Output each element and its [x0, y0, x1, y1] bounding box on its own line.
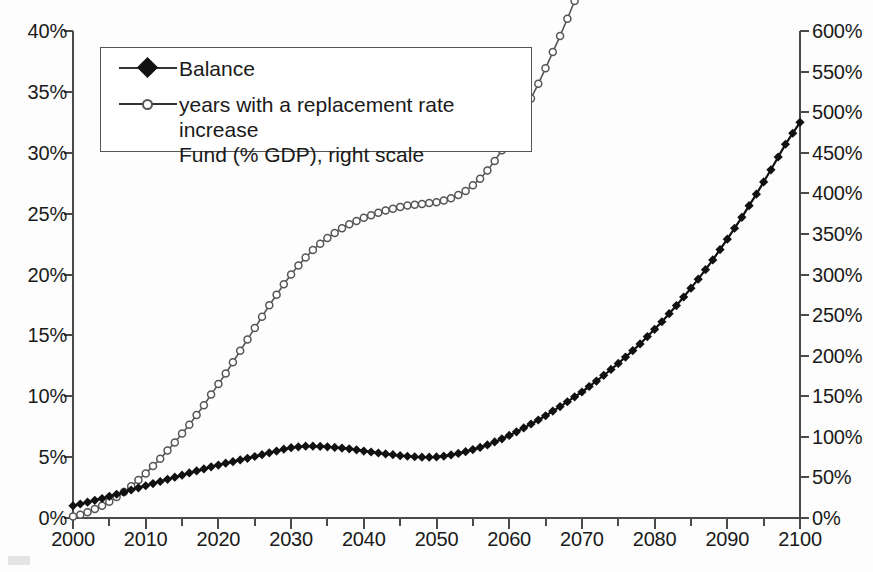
- marker-circle: [179, 430, 186, 437]
- filled-diamond-icon: [117, 56, 179, 80]
- marker-circle: [157, 455, 164, 462]
- marker-circle: [375, 209, 382, 216]
- marker-diamond: [221, 459, 230, 468]
- marker-diamond: [323, 442, 332, 451]
- marker-diamond: [134, 483, 143, 492]
- marker-diamond: [432, 452, 441, 461]
- marker-diamond: [141, 481, 150, 490]
- marker-circle: [91, 506, 98, 513]
- marker-diamond: [257, 450, 266, 459]
- marker-circle: [84, 509, 91, 516]
- marker-circle: [215, 381, 222, 388]
- marker-circle: [339, 225, 346, 232]
- legend-label-fund: years with a replacement rate increase F…: [179, 92, 531, 167]
- marker-circle: [557, 32, 564, 39]
- marker-diamond: [236, 455, 245, 464]
- marker-circle: [135, 476, 142, 483]
- marker-diamond: [170, 473, 179, 482]
- marker-diamond: [454, 449, 463, 458]
- marker-diamond: [374, 448, 383, 457]
- caption-fragment: [8, 556, 30, 565]
- marker-diamond: [265, 448, 274, 457]
- marker-diamond: [207, 462, 216, 471]
- marker-diamond: [359, 446, 368, 455]
- marker-circle: [448, 195, 455, 202]
- marker-circle: [259, 313, 266, 320]
- marker-circle: [535, 80, 542, 87]
- marker-diamond: [76, 499, 85, 508]
- marker-circle: [280, 281, 287, 288]
- marker-diamond: [243, 454, 252, 463]
- marker-diamond: [199, 464, 208, 473]
- marker-diamond: [519, 423, 528, 432]
- marker-diamond: [90, 496, 99, 505]
- marker-diamond: [163, 475, 172, 484]
- marker-circle: [411, 201, 418, 208]
- marker-diamond: [68, 501, 77, 510]
- marker-diamond: [272, 446, 281, 455]
- marker-circle: [222, 370, 229, 377]
- marker-diamond: [476, 443, 485, 452]
- marker-diamond: [381, 449, 390, 458]
- marker-circle: [469, 182, 476, 189]
- marker-diamond: [279, 445, 288, 454]
- marker-diamond: [185, 468, 194, 477]
- marker-circle: [295, 262, 302, 269]
- open-circle-icon: [117, 92, 179, 116]
- marker-circle: [200, 402, 207, 409]
- marker-circle: [404, 202, 411, 209]
- marker-circle: [455, 192, 462, 199]
- marker-circle: [389, 205, 396, 212]
- marker-circle: [317, 240, 324, 247]
- marker-circle: [549, 49, 556, 56]
- marker-diamond: [287, 443, 296, 452]
- marker-diamond: [534, 415, 543, 424]
- marker-circle: [77, 511, 84, 518]
- marker-diamond: [250, 452, 259, 461]
- marker-diamond: [774, 152, 783, 161]
- marker-circle: [229, 359, 236, 366]
- marker-circle: [324, 235, 331, 242]
- marker-circle: [426, 200, 433, 207]
- marker-diamond: [446, 450, 455, 459]
- marker-diamond: [366, 447, 375, 456]
- marker-diamond: [345, 444, 354, 453]
- marker-circle: [484, 167, 491, 174]
- marker-circle: [331, 230, 338, 237]
- marker-circle: [193, 411, 200, 418]
- marker-diamond: [214, 460, 223, 469]
- marker-circle: [462, 187, 469, 194]
- marker-diamond: [330, 443, 339, 452]
- legend-item-fund: years with a replacement rate increase F…: [117, 92, 531, 167]
- marker-circle: [237, 347, 244, 354]
- marker-diamond: [396, 451, 405, 460]
- marker-circle: [142, 470, 149, 477]
- marker-diamond: [156, 477, 165, 486]
- marker-diamond: [468, 445, 477, 454]
- marker-diamond: [526, 419, 535, 428]
- chart-legend: Balance years with a replacement rate in…: [100, 47, 532, 152]
- marker-circle: [171, 439, 178, 446]
- marker-circle: [251, 325, 258, 332]
- marker-circle: [99, 502, 106, 509]
- marker-circle: [244, 336, 251, 343]
- marker-diamond: [388, 450, 397, 459]
- marker-diamond: [337, 444, 346, 453]
- marker-diamond: [83, 498, 92, 507]
- marker-circle: [164, 447, 171, 454]
- marker-circle: [150, 463, 157, 470]
- marker-circle: [208, 391, 215, 398]
- marker-diamond: [439, 452, 448, 461]
- legend-label-balance: Balance: [179, 56, 255, 81]
- marker-diamond: [177, 471, 186, 480]
- marker-circle: [440, 197, 447, 204]
- marker-diamond: [294, 442, 303, 451]
- marker-circle: [419, 200, 426, 207]
- marker-diamond: [148, 479, 157, 488]
- marker-circle: [564, 15, 571, 22]
- marker-circle: [397, 204, 404, 211]
- marker-circle: [368, 212, 375, 219]
- chart-container: 0%5%10%15%20%25%30%35%40% 0%50%100%150%2…: [0, 0, 873, 572]
- marker-circle: [266, 302, 273, 309]
- marker-circle: [346, 221, 353, 228]
